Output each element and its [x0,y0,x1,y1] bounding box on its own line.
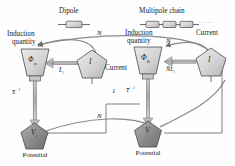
arrow-label-inductance-left: ̂Li [59,67,63,76]
header-multipole-chain: Multipole chain [139,8,185,16]
caption-current-left: Current [105,65,127,73]
node-current-left [77,50,107,84]
arrow-flux-to-potential-left [30,78,40,128]
arrow-label-transform-inverse-left: ̂S− 1 [12,89,20,96]
node-label-flux-right: ΦB [141,54,149,64]
chain-ellipsis: ····· [199,20,214,27]
caption-potential-left: Potential [15,152,55,159]
caption-induction-quantity-left-line2: quantity [12,39,36,47]
multipole-chain-legend-symbol [140,21,199,27]
caption-current-right: Current [196,30,218,38]
node-current-right [196,48,226,82]
caption-induction-quantity-right-line2: quantity [127,38,151,46]
node-label-flux-left: Φm [28,56,37,66]
node-label-potential-right: V [145,127,150,135]
node-label-current-left: I [89,58,92,66]
arc-label-N-top-left: N [97,30,102,37]
dipole-legend-symbol [58,21,90,27]
node-label-potential-left: Vi [31,129,37,139]
figure-canvas: Dipole Multipole chain ····· Induction q… [0,0,235,166]
arc-label-N-right: N [166,38,171,45]
arrow-label-inductance-right: N̂Li [166,66,175,75]
arrow-label-transform-inverse-right: ̂T− 1 [126,87,135,94]
caption-potential-right: Potential [128,150,168,157]
arc-label-N-bottom-left: N [97,113,102,120]
arrow-flux-to-potential-right [143,76,153,126]
arc-label-one-right: 1 [112,88,116,95]
header-dipole: Dipole [59,8,79,16]
node-label-current-right: I [208,56,211,64]
